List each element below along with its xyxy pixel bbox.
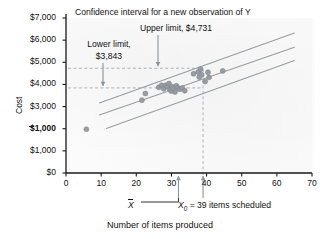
data-point [191, 71, 196, 76]
data-point [207, 75, 212, 80]
x-bar-overline [128, 199, 133, 200]
data-point [220, 68, 225, 73]
lower-limit-annotation-line2: $3,843 [74, 51, 144, 61]
x-bar-leader-line [141, 198, 178, 202]
y-axis-tick-label: $5,000 [12, 56, 56, 66]
x-axis-tick-label: 30 [161, 178, 181, 188]
x-axis-tick-label: 40 [197, 178, 217, 188]
x-axis-tick-label: 20 [126, 178, 146, 188]
x-axis-tick-label: 10 [91, 178, 111, 188]
upper-limit-annotation: Upper limit, $4,731 [140, 23, 212, 33]
x-axis-title: Number of items produced [0, 220, 320, 230]
y-axis-tick-label: $0 [12, 167, 56, 177]
data-point [182, 88, 187, 93]
x-axis-tick-label: 0 [56, 178, 76, 188]
y-axis-tick-label: $6,000 [12, 34, 56, 44]
data-point [84, 127, 89, 132]
y-axis-tick-label: $7,000 [12, 12, 56, 22]
y-axis-tick-label: $4,000 [12, 78, 56, 88]
data-point [139, 98, 144, 103]
chart-title-annotation: Confidence interval for a new observatio… [75, 7, 251, 17]
x-axis-tick-label: 50 [232, 178, 252, 188]
x0-annotation: X0 = 39 items scheduled [178, 200, 271, 212]
x-axis-tick-label: 70 [302, 178, 320, 188]
data-point [143, 91, 148, 96]
data-point [205, 70, 210, 75]
x-bar-label: X [128, 200, 134, 210]
x-axis-tick-label: 60 [267, 178, 287, 188]
x-bar-symbol: X [128, 200, 134, 210]
data-point [199, 72, 204, 77]
chart-figure: Cost $0$1,000$1,000$3,000$4,000$5,000$6,… [0, 0, 320, 239]
y-axis-tick-label: $3,000 [12, 101, 56, 111]
data-point [203, 79, 208, 84]
data-point [198, 67, 203, 72]
lower-limit-annotation-line1: Lower limit, [74, 39, 144, 49]
y-axis-tick-label: $1,000 [12, 123, 56, 133]
y-axis-tick-label: $1,000 [12, 145, 56, 155]
x0-text: = 39 items scheduled [187, 200, 271, 210]
